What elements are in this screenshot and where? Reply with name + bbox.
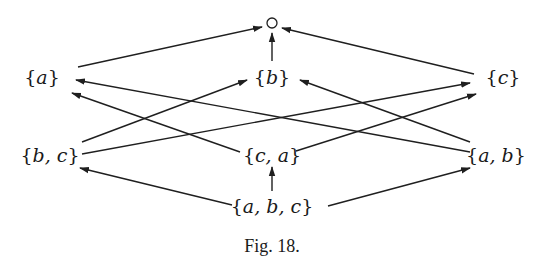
hasse-diagram: {a} {b} {c} {b, c} {c, a} {a, b} {a, b, … — [0, 0, 558, 263]
edge-abc-to-bc — [80, 168, 232, 205]
edge-group — [72, 27, 476, 206]
node-a: {a} — [24, 68, 60, 87]
edge-c-to-empty — [282, 28, 474, 74]
node-bc: {b, c} — [20, 146, 79, 165]
node-abc-label: a, b, c — [243, 195, 301, 217]
node-b: {b} — [254, 68, 290, 87]
edge-bc-to-b — [82, 80, 247, 142]
node-abc: {a, b, c} — [231, 197, 313, 216]
node-ab-label: a, b — [478, 144, 514, 166]
edge-abc-to-ab — [328, 168, 470, 206]
node-ab: {a, b} — [466, 146, 526, 165]
node-c-label: c — [498, 66, 509, 88]
node-b-label: b — [266, 66, 278, 88]
node-a-label: a — [36, 66, 47, 88]
edge-ca-to-c — [296, 94, 476, 151]
node-bc-label: b, c — [33, 144, 68, 166]
node-c: {c} — [486, 68, 521, 87]
edges-layer — [0, 0, 558, 263]
edge-a-to-empty — [78, 27, 262, 67]
edge-ab-to-a — [76, 80, 470, 152]
edge-ca-to-a — [72, 93, 240, 152]
figure-caption: Fig. 18. — [244, 236, 300, 257]
node-ca-label: c, a — [255, 144, 289, 166]
edge-ab-to-b — [300, 80, 470, 142]
empty-set-circle-icon — [267, 18, 277, 28]
node-ca: {c, a} — [243, 146, 301, 165]
